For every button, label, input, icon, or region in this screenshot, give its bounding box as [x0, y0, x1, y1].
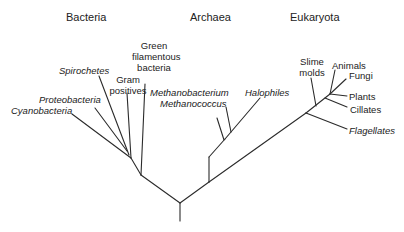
taxon-label-methanococcus: Methanococcus — [160, 98, 227, 109]
branch-gram-positives — [127, 93, 131, 158]
bacteria-stem — [141, 175, 180, 203]
taxon-label-slime-molds: Slime molds — [298, 56, 326, 78]
domain-label-archaea: Archaea — [190, 11, 231, 23]
branch-halophiles — [225, 98, 260, 139]
taxon-label-flagellates: Flagellates — [349, 125, 395, 136]
branch-flagellates — [306, 113, 347, 129]
green-filamentous-line-3: bacteria — [132, 62, 176, 73]
taxon-label-fungi: Fungi — [349, 70, 373, 81]
branch-green-filamentous — [141, 84, 145, 175]
branch-cillates — [325, 98, 347, 107]
archaea-stem-diagonal — [209, 139, 225, 157]
bacteria-subnode-stem — [131, 158, 141, 175]
domain-label-eukaryota: Eukaryota — [290, 11, 340, 23]
gram-positives-line-2: positives — [108, 85, 148, 96]
eukaryota-stem — [209, 113, 306, 182]
slime-molds-line-1: Slime — [298, 56, 326, 67]
green-filamentous-line-2: filamentous — [132, 51, 176, 62]
taxon-label-gram-positives: Gram positives — [108, 74, 148, 96]
eukaryota-inner-stem — [306, 94, 330, 113]
branch-methanobacterium — [226, 107, 231, 132]
slime-molds-line-2: molds — [298, 67, 326, 78]
tree-branches — [0, 0, 404, 232]
gram-positives-line-1: Gram — [108, 74, 148, 85]
branch-proteobacteria — [95, 108, 127, 151]
archaea-eukaryota-stem — [180, 182, 209, 203]
taxon-label-plants: Plants — [349, 91, 375, 102]
taxon-label-halophiles: Halophiles — [245, 87, 289, 98]
branch-plants — [330, 94, 347, 96]
branch-methanococcus — [217, 118, 224, 140]
branch-slime-molds — [311, 78, 316, 106]
taxon-label-green-filamentous-bacteria: Green filamentous bacteria — [132, 40, 176, 73]
domain-label-bacteria: Bacteria — [66, 11, 106, 23]
taxon-label-cillates: Cillates — [350, 104, 381, 115]
taxon-label-cyanobacteria: Cyanobacteria — [11, 105, 72, 116]
taxon-label-methanobacterium: Methanobacterium — [150, 87, 229, 98]
phylogenetic-tree-diagram: Bacteria Archaea Eukaryota Cyanobacteria… — [0, 0, 404, 232]
green-filamentous-line-1: Green — [132, 40, 176, 51]
taxon-label-spirochetes: Spirochetes — [59, 65, 109, 76]
taxon-label-proteobacteria: Proteobacteria — [39, 94, 101, 105]
